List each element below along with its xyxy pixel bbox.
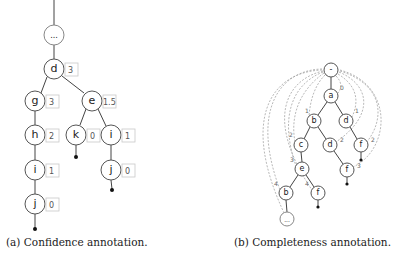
- tree-edge: [290, 175, 298, 187]
- tree-node: ...: [280, 212, 294, 226]
- node-label: b: [311, 116, 316, 125]
- caption-b: (b) Completeness annotation.: [234, 236, 391, 248]
- node-label: e: [89, 94, 96, 107]
- tree-node: a 0: [324, 84, 344, 103]
- tree-node: d 1: [339, 107, 359, 128]
- tree-node: c 2: [289, 131, 308, 152]
- node-label: f: [346, 165, 349, 174]
- confidence-tree: ... d 3 g 3 e 1.5 h 2: [25, 0, 135, 231]
- tree-edge: [41, 77, 47, 93]
- leaf-end-marker: [316, 205, 319, 208]
- node-label: e: [300, 164, 305, 173]
- leaf-end-marker: [33, 227, 37, 231]
- confidence-value: 1.5: [103, 98, 116, 107]
- node-label: c: [299, 140, 303, 149]
- node-label: k: [73, 128, 80, 141]
- caption-a: (a) Confidence annotation.: [6, 236, 148, 248]
- node-label: j: [108, 163, 112, 176]
- tree-node: g 3: [25, 91, 59, 111]
- tree-edge: [111, 180, 112, 189]
- node-label: ...: [284, 216, 290, 223]
- back-edge: [294, 73, 324, 142]
- tree-node: k 0: [66, 125, 100, 145]
- tree-node: b 1: [305, 107, 321, 128]
- tree-edge: [318, 127, 326, 139]
- tree-node: e 3: [290, 156, 309, 176]
- confidence-value: 1: [49, 167, 54, 176]
- tree-edge: [318, 102, 327, 115]
- node-label: f: [360, 140, 363, 149]
- tree-node: ...: [44, 25, 64, 45]
- tree-edge: [335, 102, 343, 115]
- confidence-value: 3: [68, 66, 73, 75]
- figure-canvas: ... d 3 g 3 e 1.5 h 2: [0, 0, 395, 254]
- node-label: a: [329, 91, 334, 100]
- completeness-value: 1: [305, 107, 309, 114]
- tree-node: i 1: [101, 125, 135, 145]
- tree-edge: [286, 200, 287, 212]
- node-label: g: [32, 94, 39, 107]
- node-label: ...: [50, 31, 58, 40]
- completeness-value: 4: [305, 180, 309, 187]
- node-label: d: [343, 116, 348, 125]
- node-label: d: [327, 140, 332, 149]
- confidence-value: 3: [49, 98, 54, 107]
- completeness-value: 0: [340, 84, 344, 91]
- tree-edge: [301, 152, 302, 162]
- confidence-value: 0: [90, 132, 95, 141]
- tree-node: i 1: [25, 160, 59, 180]
- node-label: d: [51, 62, 58, 75]
- tree-edge: [334, 151, 343, 164]
- tree-edge: [80, 109, 86, 125]
- tree-edge: [98, 109, 106, 126]
- node-label: h: [32, 128, 39, 141]
- tree-node: e 1.5: [82, 91, 116, 111]
- leaf-end-marker: [74, 155, 78, 159]
- tree-node: -: [324, 63, 338, 77]
- confidence-value: 0: [125, 167, 130, 176]
- completeness-value: 3: [290, 156, 294, 163]
- node-label: i: [109, 128, 112, 141]
- tree-node: j 0: [101, 160, 135, 180]
- tree-node: j 0: [25, 194, 59, 214]
- tree-node: d 3: [44, 59, 78, 79]
- tree-edge: [62, 76, 84, 93]
- tree-edge: [350, 127, 357, 139]
- completeness-value: 2: [371, 136, 375, 143]
- tree-edge: [304, 127, 310, 139]
- completeness-tree: - a 0 b 1 d 1 c 2 d 2 f 2: [263, 63, 381, 226]
- tree-node: f 4: [305, 180, 325, 200]
- confidence-value: 1: [125, 132, 130, 141]
- node-label: i: [33, 163, 36, 176]
- leaf-end-marker: [110, 188, 114, 192]
- leaf-end-marker: [345, 182, 348, 185]
- completeness-value: 2: [289, 131, 293, 138]
- tree-node: f 3: [340, 162, 361, 177]
- confidence-value: 0: [49, 201, 54, 210]
- confidence-value: 2: [49, 132, 54, 141]
- completeness-value: 3: [357, 162, 361, 169]
- completeness-value: 2: [340, 136, 344, 143]
- node-label: -: [330, 65, 333, 74]
- back-edge: [340, 71, 378, 143]
- tree-node: h 2: [25, 125, 59, 145]
- back-edge: [309, 75, 325, 117]
- completeness-value: 1: [355, 107, 359, 114]
- node-label: j: [32, 197, 36, 210]
- node-label: b: [283, 188, 288, 197]
- completeness-value: 4: [274, 180, 278, 187]
- node-label: f: [317, 188, 320, 197]
